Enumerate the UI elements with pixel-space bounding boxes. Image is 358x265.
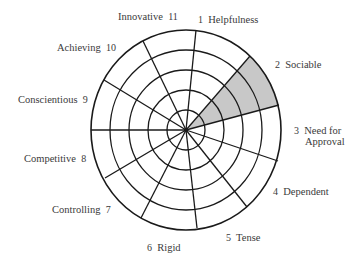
label-sociable: 2 Sociable (275, 59, 321, 71)
label-need-for-approval: 3 Need for Approval (294, 125, 345, 147)
label-achieving: Achieving 10 (57, 42, 116, 54)
center-point (184, 128, 188, 132)
label-controlling: Controlling 7 (52, 204, 111, 216)
label-conscientious: Conscientious 9 (18, 94, 88, 106)
label-innovative: Innovative 11 (118, 11, 178, 23)
label-tense: 5 Tense (226, 232, 260, 244)
label-rigid: 6 Rigid (147, 242, 181, 254)
label-helpfulness: 1 Helpfulness (198, 14, 258, 26)
label-dependent: 4 Dependent (273, 186, 329, 198)
spoke-1 (186, 30, 196, 130)
spoke-4 (186, 130, 278, 161)
spoke-6 (186, 130, 197, 228)
label-competitive: Competitive 8 (24, 153, 86, 165)
